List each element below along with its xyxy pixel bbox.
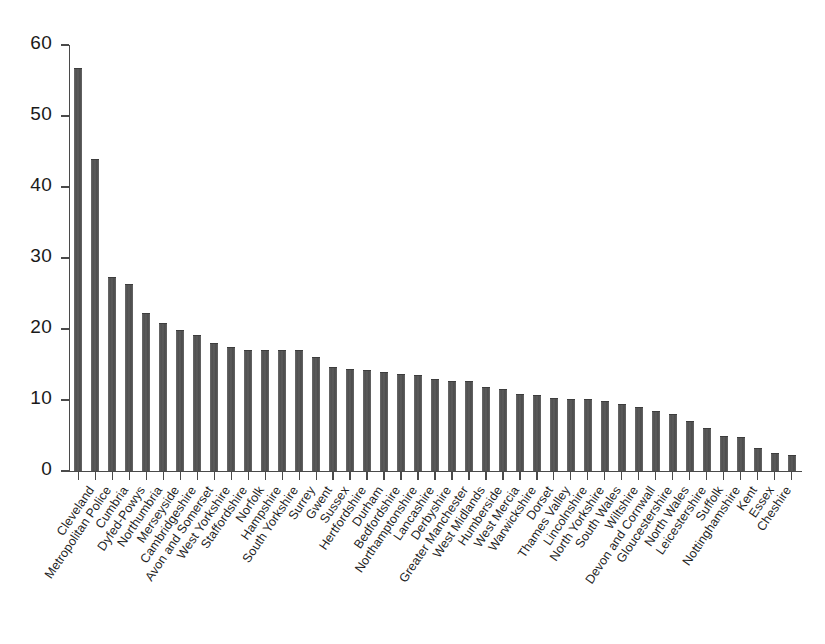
x-axis-tick	[282, 472, 283, 480]
bar	[261, 350, 269, 471]
x-axis-tick	[214, 472, 215, 480]
bar	[669, 414, 677, 472]
x-axis-tick	[638, 472, 639, 480]
bar	[567, 399, 575, 471]
y-axis-tick-label: 10	[0, 387, 52, 409]
y-axis-tick-label: 30	[0, 245, 52, 267]
bar	[754, 448, 762, 471]
bar	[159, 323, 167, 471]
bar-chart: 0102030405060 ClevelandMetropolitan Poli…	[0, 0, 825, 644]
x-axis-tick	[451, 472, 452, 480]
x-axis-tick	[265, 472, 266, 480]
x-axis-label-wrapper	[797, 482, 807, 489]
bar	[652, 411, 660, 471]
x-axis-tick	[774, 472, 775, 480]
bar	[788, 455, 796, 471]
x-axis-tick	[434, 472, 435, 480]
bar	[737, 437, 745, 471]
y-axis-tick-label: 40	[0, 174, 52, 196]
bar	[125, 284, 133, 471]
x-axis-tick	[536, 472, 537, 480]
bar	[703, 428, 711, 471]
bar	[278, 350, 286, 471]
x-axis-tick	[468, 472, 469, 480]
bar	[499, 389, 507, 471]
bar	[312, 357, 320, 471]
bar	[482, 387, 490, 471]
x-axis-tick	[519, 472, 520, 480]
x-axis-tick	[502, 472, 503, 480]
bar	[635, 407, 643, 471]
bar	[363, 370, 371, 471]
x-axis-tick	[723, 472, 724, 480]
bar	[346, 369, 354, 471]
x-axis-tick	[570, 472, 571, 480]
bar	[601, 401, 609, 471]
plot-area	[70, 45, 800, 471]
y-axis-tick	[61, 186, 69, 187]
bar	[533, 395, 541, 471]
bar	[550, 398, 558, 471]
bar	[448, 381, 456, 471]
bar	[244, 350, 252, 471]
x-axis-tick	[366, 472, 367, 480]
x-axis-tick	[485, 472, 486, 480]
bar	[227, 347, 235, 471]
bar	[210, 343, 218, 471]
bar	[465, 381, 473, 471]
y-axis-tick	[61, 115, 69, 116]
x-axis-tick	[417, 472, 418, 480]
bar	[584, 399, 592, 471]
bar	[329, 367, 337, 471]
bar	[74, 68, 82, 471]
bar	[414, 375, 422, 471]
y-axis-tick	[61, 470, 69, 471]
x-axis-tick	[248, 472, 249, 480]
bar	[193, 335, 201, 471]
bar	[516, 394, 524, 471]
y-axis-tick	[61, 44, 69, 45]
bar	[431, 379, 439, 471]
x-axis-tick	[332, 472, 333, 480]
y-axis-tick	[61, 257, 69, 258]
bar	[720, 436, 728, 472]
bar	[108, 277, 116, 471]
x-axis-tick	[95, 472, 96, 480]
x-axis-tick	[197, 472, 198, 480]
x-axis-tick	[740, 472, 741, 480]
x-axis-tick	[129, 472, 130, 480]
x-axis-labels: ClevelandMetropolitan PoliceCumbriaDyfed…	[0, 482, 825, 644]
y-axis-tick-label: 0	[0, 458, 52, 480]
x-axis-tick	[655, 472, 656, 480]
bar	[91, 159, 99, 471]
x-axis-tick	[112, 472, 113, 480]
y-axis-tick-label: 20	[0, 316, 52, 338]
bar	[686, 421, 694, 471]
y-axis-tick	[61, 399, 69, 400]
x-axis-tick	[231, 472, 232, 480]
x-axis-tick	[180, 472, 181, 480]
x-axis-tick	[400, 472, 401, 480]
bar	[295, 350, 303, 471]
x-axis-tick	[316, 472, 317, 480]
bar	[142, 313, 150, 471]
x-axis-tick	[587, 472, 588, 480]
x-axis-tick	[604, 472, 605, 480]
x-axis-tick	[553, 472, 554, 480]
x-axis-tick	[163, 472, 164, 480]
x-axis-tick	[349, 472, 350, 480]
x-axis-tick	[791, 472, 792, 480]
bar	[771, 453, 779, 471]
y-axis-tick	[61, 328, 69, 329]
bar	[380, 372, 388, 471]
bar	[176, 330, 184, 471]
x-axis-tick	[757, 472, 758, 480]
x-axis-tick	[146, 472, 147, 480]
x-axis-tick	[299, 472, 300, 480]
y-axis-tick-label: 50	[0, 103, 52, 125]
bar	[618, 404, 626, 471]
x-axis-tick	[689, 472, 690, 480]
x-axis-tick	[78, 472, 79, 480]
x-axis-tick	[621, 472, 622, 480]
x-axis-tick	[706, 472, 707, 480]
